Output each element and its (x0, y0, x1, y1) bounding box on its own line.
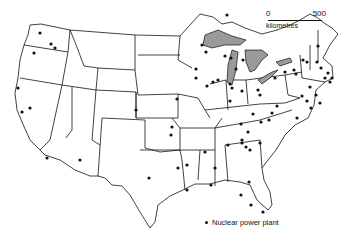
nuclear-plant-marker (228, 99, 231, 102)
nuclear-plant-marker (261, 210, 264, 213)
nuclear-plant-marker (273, 76, 276, 79)
nuclear-plant-marker (228, 82, 231, 85)
nuclear-plant-marker (283, 70, 286, 73)
scale-unit-label: kilometres (266, 22, 298, 29)
lake-ontario (276, 58, 292, 66)
nuclear-plant-marker (241, 58, 244, 61)
great-lakes (203, 30, 292, 85)
nuclear-plant-marker (326, 71, 329, 74)
nuclear-plant-marker (176, 166, 179, 169)
nuclear-plant-marker (194, 67, 197, 70)
nuclear-plant-markers (16, 13, 333, 213)
nuclear-plant-marker (147, 176, 150, 179)
nuclear-plant-marker (229, 56, 232, 59)
scale-bar: 0 500 kilometres (266, 9, 326, 35)
nuclear-plant-marker (300, 94, 303, 97)
nuclear-plant-marker (258, 93, 261, 96)
plant-dot-icon (205, 221, 208, 224)
nuclear-plant-marker (170, 125, 173, 128)
national-outline (15, 14, 338, 228)
scale-line (268, 20, 322, 21)
nuclear-plant-marker (225, 13, 228, 16)
nuclear-plant-marker (328, 80, 331, 83)
nuclear-plant-marker (240, 141, 243, 144)
nuclear-plant-marker (256, 88, 259, 91)
nuclear-plant-marker (308, 85, 311, 88)
us-map (0, 0, 357, 240)
nuclear-plant-marker (169, 133, 172, 136)
nuclear-plant-marker (240, 138, 243, 141)
nuclear-plant-marker (223, 54, 226, 57)
nuclear-plant-marker (305, 60, 308, 63)
lake-huron (245, 50, 268, 72)
scale-start-label: 0 (266, 9, 270, 18)
nuclear-plant-marker (200, 43, 203, 46)
nuclear-plant-marker (294, 72, 297, 75)
nuclear-plant-marker (318, 101, 321, 104)
nuclear-plant-marker (316, 44, 319, 47)
nuclear-plant-marker (32, 51, 35, 54)
nuclear-plant-marker (247, 180, 250, 183)
nuclear-plant-marker (38, 31, 41, 34)
nuclear-plant-marker (323, 76, 326, 79)
nuclear-plant-marker (267, 118, 270, 121)
nuclear-plant-marker (234, 67, 237, 70)
nuclear-plant-marker (209, 183, 212, 186)
nuclear-plant-marker (205, 84, 208, 87)
nuclear-plant-marker (53, 46, 56, 49)
nuclear-plant-marker (315, 60, 318, 63)
nuclear-plant-marker (309, 106, 312, 109)
nuclear-plant-marker (270, 111, 273, 114)
nuclear-plant-marker (305, 99, 308, 102)
nuclear-plant-marker (246, 130, 249, 133)
nuclear-plant-marker (78, 158, 81, 161)
nuclear-plant-marker (203, 150, 206, 153)
lake-superior (203, 30, 246, 48)
legend: Nuclear power plant (205, 218, 279, 227)
nuclear-plant-marker (216, 78, 219, 81)
nuclear-plant-marker (204, 50, 207, 53)
nuclear-plant-marker (248, 148, 251, 151)
nuclear-plant-marker (49, 42, 52, 45)
nuclear-plant-marker (295, 116, 298, 119)
nuclear-plant-marker (185, 163, 188, 166)
nuclear-plant-marker (258, 141, 261, 144)
nuclear-plant-marker (45, 156, 48, 159)
nuclear-plant-marker (301, 58, 304, 61)
nuclear-plant-marker (259, 120, 262, 123)
nuclear-plant-marker (211, 80, 214, 83)
state-boundaries (15, 14, 338, 228)
nuclear-plant-marker (28, 106, 31, 109)
nuclear-plant-marker (185, 188, 188, 191)
nuclear-plant-marker (244, 145, 247, 148)
nuclear-plant-marker (330, 76, 333, 79)
legend-label: Nuclear power plant (212, 218, 279, 227)
scale-end-label: 500 (313, 9, 326, 18)
nuclear-plant-marker (240, 89, 243, 92)
nuclear-plant-marker (319, 66, 322, 69)
nuclear-plant-marker (292, 68, 295, 71)
nuclear-plant-marker (230, 86, 233, 89)
nuclear-plant-marker (194, 76, 197, 79)
nuclear-plant-marker (213, 166, 216, 169)
nuclear-plant-marker (239, 193, 242, 196)
nuclear-plant-marker (249, 203, 252, 206)
nuclear-plant-marker (239, 122, 242, 125)
nuclear-plant-marker (134, 108, 137, 111)
nuclear-plant-marker (175, 97, 178, 100)
nuclear-plant-marker (226, 143, 229, 146)
nuclear-plant-marker (20, 110, 23, 113)
nuclear-plant-marker (16, 86, 19, 89)
nuclear-plant-marker (251, 112, 254, 115)
nuclear-plant-marker (275, 104, 278, 107)
nuclear-plant-marker (314, 93, 317, 96)
